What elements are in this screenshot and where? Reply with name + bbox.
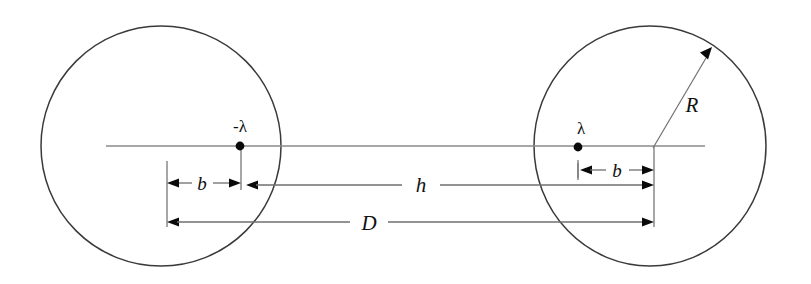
right-b-arrowhead-right [642,166,654,175]
right-offset-label: b [612,160,622,181]
right-charge-dot [574,143,583,152]
physics-diagram-canvas: -λ λ R b b h D [0,0,811,284]
left-offset-label: b [197,173,207,194]
gap-label: h [416,173,427,197]
h-arrowhead-right [642,181,654,190]
D-arrowhead-right [642,218,654,227]
left-b-arrowhead-right [229,179,241,188]
radius-arrowhead [700,47,712,60]
left-charge-label: -λ [233,117,248,136]
diagram-svg: -λ λ R b b h D [0,0,811,284]
left-charge-dot [236,142,245,151]
separation-label: D [360,211,376,235]
left-b-arrowhead-left [167,179,179,188]
right-charge-label: λ [577,119,586,138]
radius-label: R [685,93,699,117]
